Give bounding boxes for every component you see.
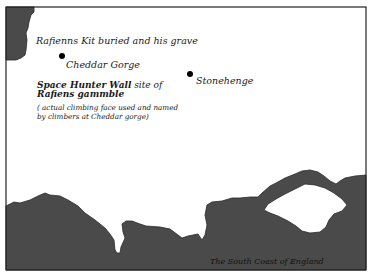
wall-suffix: site of	[131, 80, 162, 90]
climbing-note: ( actual climbing face used and named by…	[37, 103, 178, 121]
space-hunter-wall-label: Space Hunter Wall site of Rafiens gammbl…	[37, 81, 162, 99]
stonehenge-marker	[187, 71, 193, 77]
map: Rafienns Kit buried and his grave Chedda…	[0, 0, 372, 277]
cheddar-gorge-marker	[59, 53, 65, 59]
note-line1: ( actual climbing face used and named	[37, 103, 178, 112]
cheddar-gorge-label: Cheddar Gorge	[66, 60, 140, 70]
stonehenge-label: Stonehenge	[196, 76, 253, 86]
coast-label: The South Coast of England	[210, 258, 324, 266]
note-line2: by climbers at Cheddar gorge)	[37, 112, 178, 121]
land-wales	[6, 7, 34, 60]
wall-line2: Rafiens gammble	[37, 89, 124, 99]
land-south-coast	[6, 170, 366, 270]
map-title: Rafienns Kit buried and his grave	[36, 36, 198, 46]
